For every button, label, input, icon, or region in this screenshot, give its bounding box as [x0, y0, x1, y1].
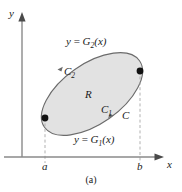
lower-curve-argument: (x)	[102, 133, 114, 145]
lower-arc-subscript: 1	[108, 109, 112, 118]
upper-arc-subscript: 2	[71, 71, 75, 80]
x-tick-label-a: a	[42, 161, 48, 172]
y-axis-arrow-icon	[18, 12, 25, 22]
y-axis-label: y	[9, 8, 14, 19]
region-label: R	[85, 89, 92, 100]
upper-curve-function: G	[83, 35, 91, 47]
x-axis-arrow-icon	[155, 153, 165, 160]
lower-curve-function: G	[91, 133, 99, 145]
lower-arc-label: C1	[101, 104, 112, 118]
x-tick-label-b: b	[137, 161, 143, 172]
boundary-curve-label: C	[122, 110, 129, 121]
orientation-arrow-upper-icon	[58, 67, 63, 72]
upper-arc-label: C2	[64, 66, 75, 80]
upper-curve-argument: (x)	[94, 35, 106, 47]
marker-right-endpoint	[137, 68, 144, 75]
lower-curve-equation: y = G1(x)	[74, 134, 115, 148]
x-axis-label: x	[167, 159, 172, 170]
figure-caption: (a)	[0, 174, 182, 185]
figure-container: y x a b y = G2(x) y = G1(x) C2 R C1 C (a…	[0, 0, 182, 192]
upper-curve-equation: y = G2(x)	[66, 36, 107, 50]
marker-left-endpoint	[42, 115, 49, 122]
